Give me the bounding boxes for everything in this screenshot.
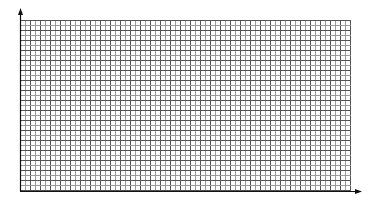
x-axis-arrow-icon: [355, 189, 362, 194]
y-axis-arrow-icon: [18, 8, 23, 15]
graph-paper-diagram: [0, 0, 372, 207]
grid-lines: [20, 20, 351, 191]
